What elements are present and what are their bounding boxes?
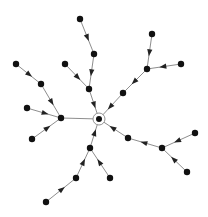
root-node	[96, 116, 102, 122]
graph-node	[107, 175, 113, 181]
graph-node	[86, 86, 92, 92]
graph-node	[13, 61, 19, 67]
graph-node	[125, 135, 131, 141]
graph-node	[144, 66, 150, 72]
graph-node	[73, 175, 79, 181]
arrowhead-icon	[91, 101, 96, 108]
graph-node	[29, 136, 35, 142]
graph-node	[77, 16, 83, 22]
arrowhead-icon	[89, 69, 94, 76]
arrowhead-icon	[174, 137, 181, 142]
arrowhead-icon	[41, 110, 48, 115]
graph-node	[178, 61, 184, 67]
graph-node	[38, 81, 44, 87]
arrowhead-icon	[58, 187, 65, 193]
graph-node	[43, 199, 49, 205]
arrowhead-icon	[80, 159, 85, 166]
arrowhead-icon	[97, 159, 103, 166]
arrowhead-icon	[110, 126, 117, 132]
arrowhead-icon	[159, 64, 166, 69]
graph-node	[62, 61, 68, 67]
graph-node	[24, 105, 30, 111]
graph-node	[87, 145, 93, 151]
graph-node	[184, 169, 190, 175]
graph-node	[149, 31, 155, 37]
arrowhead-icon	[25, 70, 32, 76]
graph-node	[192, 130, 198, 136]
nodes-layer	[13, 16, 198, 205]
arrowhead-icon	[91, 129, 96, 136]
arrowhead-icon	[43, 126, 50, 132]
arrowhead-icon	[48, 98, 54, 105]
directed-tree-graph	[0, 0, 208, 217]
graph-node	[159, 145, 165, 151]
arrowhead-icon	[140, 141, 147, 146]
graph-node	[120, 90, 126, 96]
arrowhead-icon	[147, 49, 152, 56]
graph-node	[91, 51, 97, 57]
arrows-layer	[25, 34, 182, 194]
arrowhead-icon	[84, 34, 89, 41]
graph-node	[58, 115, 64, 121]
